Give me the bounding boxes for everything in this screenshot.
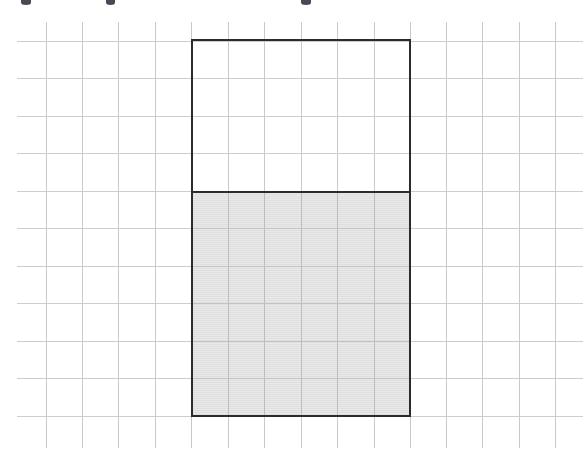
grid-line-vertical-1 [82, 22, 83, 448]
fill-boundary-line [191, 191, 411, 193]
figure-canvas [0, 0, 587, 451]
grid-line-vertical-2 [118, 22, 119, 448]
grid-line-vertical-14 [555, 22, 556, 448]
grid-line-vertical-3 [155, 22, 156, 448]
outlined-rectangle [191, 39, 411, 417]
grid-line-vertical-11 [446, 22, 447, 448]
grid-line-vertical-12 [482, 22, 483, 448]
grid-line-vertical-13 [519, 22, 520, 448]
grid-line-vertical-0 [46, 22, 47, 448]
